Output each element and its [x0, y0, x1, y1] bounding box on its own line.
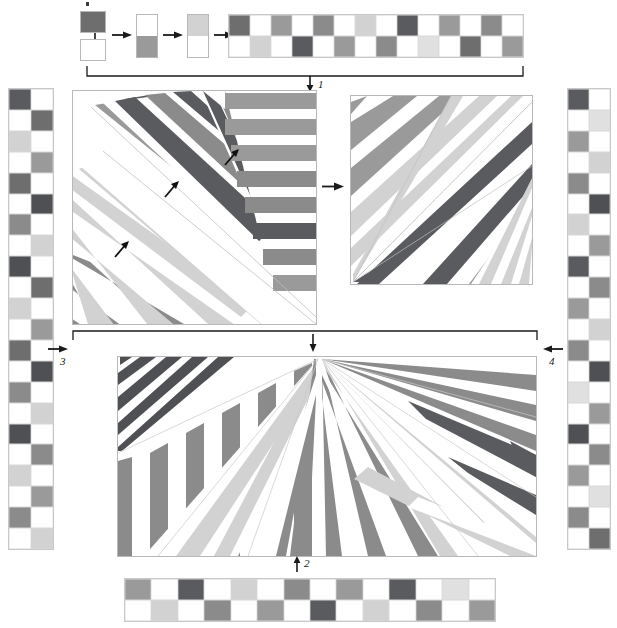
top-checker-strip: [228, 14, 524, 58]
checker-cell: [9, 465, 31, 486]
top-tick-mark: [86, 2, 89, 6]
checker-cell: [31, 131, 53, 152]
checker-cell: [229, 36, 250, 57]
upper-left-fan-panel: [72, 90, 317, 325]
checker-cell: [9, 528, 31, 549]
checker-cell: [589, 486, 610, 507]
checker-cell: [439, 36, 460, 57]
upper-right-fan-panel: [350, 95, 533, 285]
checker-cell: [31, 256, 53, 277]
checker-cell: [9, 319, 31, 340]
step-label-4: 4: [549, 356, 555, 367]
checker-cell: [9, 277, 31, 298]
checker-cell: [31, 235, 53, 256]
checker-cell: [151, 579, 177, 600]
bottom-fan-panel: [117, 356, 537, 557]
checker-cell: [418, 36, 439, 57]
checker-cell: [9, 110, 31, 131]
checker-cell: [204, 579, 230, 600]
checker-cell: [250, 36, 271, 57]
checker-cell: [568, 131, 589, 152]
checker-cell: [363, 600, 389, 621]
checker-cell: [376, 15, 397, 36]
checker-cell: [292, 36, 313, 57]
checker-cell: [469, 600, 495, 621]
checker-cell: [231, 600, 257, 621]
checker-cell: [397, 36, 418, 57]
checker-cell: [250, 15, 271, 36]
checker-cell: [439, 15, 460, 36]
checker-cell: [589, 214, 610, 235]
checker-cell: [460, 15, 481, 36]
seed-square-top: [80, 11, 106, 33]
step-34-bracket: [72, 330, 538, 342]
checker-cell: [9, 444, 31, 465]
checker-cell: [31, 110, 53, 131]
checker-cell: [125, 579, 151, 600]
checker-cell: [334, 15, 355, 36]
checker-cell: [355, 36, 376, 57]
checker-cell: [568, 277, 589, 298]
checker-cell: [31, 89, 53, 110]
checker-cell: [9, 152, 31, 173]
stage-cell: [188, 36, 208, 57]
checker-cell: [257, 579, 283, 600]
checker-cell: [31, 424, 53, 445]
checker-cell: [310, 579, 336, 600]
sequence-right-arrow-2: [163, 30, 183, 40]
checker-cell: [589, 131, 610, 152]
checker-cell: [31, 382, 53, 403]
bottom-checker-strip: [124, 578, 496, 622]
checker-cell: [568, 173, 589, 194]
checker-cell: [568, 298, 589, 319]
checker-cell: [568, 403, 589, 424]
checker-cell: [9, 486, 31, 507]
flow-arrow-step-2: [292, 556, 302, 572]
checker-cell: [178, 579, 204, 600]
checker-cell: [313, 15, 334, 36]
checker-cell: [568, 214, 589, 235]
checker-cell: [568, 194, 589, 215]
stage-cell: [188, 15, 208, 36]
checker-cell: [310, 600, 336, 621]
checker-cell: [9, 340, 31, 361]
flow-arrow-upper-mid: [322, 181, 344, 192]
checker-cell: [442, 600, 468, 621]
checker-cell: [9, 424, 31, 445]
checker-cell: [589, 465, 610, 486]
checker-cell: [442, 579, 468, 600]
checker-cell: [481, 15, 502, 36]
checker-cell: [568, 89, 589, 110]
checker-cell: [31, 361, 53, 382]
sequence-right-arrow-1: [112, 30, 132, 40]
checker-cell: [31, 507, 53, 528]
checker-cell: [292, 15, 313, 36]
checker-cell: [271, 36, 292, 57]
checker-cell: [178, 600, 204, 621]
checker-cell: [204, 600, 230, 621]
checker-cell: [9, 256, 31, 277]
checker-cell: [9, 382, 31, 403]
checker-cell: [589, 110, 610, 131]
checker-cell: [416, 579, 442, 600]
checker-cell: [31, 214, 53, 235]
checker-cell: [568, 319, 589, 340]
checker-cell: [568, 528, 589, 549]
checker-cell: [271, 15, 292, 36]
checker-cell: [257, 600, 283, 621]
checker-cell: [481, 36, 502, 57]
checker-cell: [589, 319, 610, 340]
checker-cell: [589, 403, 610, 424]
checker-cell: [336, 579, 362, 600]
checker-cell: [31, 319, 53, 340]
checker-cell: [355, 15, 376, 36]
checker-cell: [9, 89, 31, 110]
checker-cell: [9, 403, 31, 424]
checker-cell: [568, 235, 589, 256]
checker-cell: [469, 579, 495, 600]
flow-arrow-step-4: [543, 344, 563, 354]
checker-cell: [589, 152, 610, 173]
checker-cell: [31, 194, 53, 215]
checker-cell: [9, 235, 31, 256]
checker-cell: [9, 507, 31, 528]
